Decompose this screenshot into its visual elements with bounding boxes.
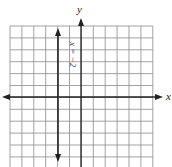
- x-axis: x: [2, 90, 171, 102]
- vertical-line-x-neg2: [55, 28, 61, 162]
- y-axis-label: y: [76, 3, 82, 15]
- x-axis-right-arrow-icon: [155, 94, 163, 100]
- x-axis-left-arrow-icon: [2, 94, 10, 100]
- coordinate-plane: x y x = −2: [0, 0, 172, 167]
- line-bottom-arrow-icon: [55, 154, 61, 162]
- line-equation-label: x = −2: [68, 41, 78, 68]
- line-top-arrow-icon: [55, 28, 61, 36]
- y-axis-up-arrow-icon: [78, 18, 84, 26]
- x-axis-label: x: [165, 90, 171, 102]
- y-axis: y: [76, 3, 84, 167]
